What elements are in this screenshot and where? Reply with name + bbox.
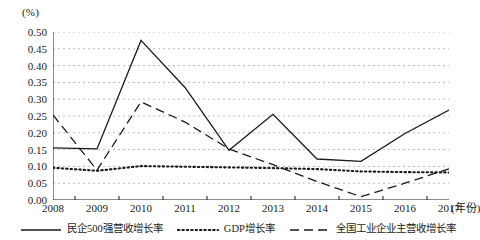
x-axis-tick-labels: 2008200920102011201220132014201520162017 [53, 203, 449, 219]
legend-label: 全国工业企业主营收增长率 [336, 224, 456, 235]
series-line [53, 166, 449, 172]
y-tick-label: 0.20 [28, 127, 47, 138]
chart-legend: 民企500强营收增长率GDP增长率全国工业企业主营收增长率 [0, 219, 476, 240]
x-tick-label: 2009 [86, 203, 108, 214]
x-tick-label: 2012 [218, 203, 240, 214]
gridlines [53, 32, 449, 183]
series-paths [53, 40, 449, 196]
x-axis-title: (年份) [451, 203, 480, 214]
x-tick-label: 2016 [394, 203, 416, 214]
x-tick-label: 2015 [350, 203, 372, 214]
series-line [53, 40, 449, 161]
legend-item[interactable]: GDP增长率 [177, 224, 275, 235]
x-tick-label: 2013 [262, 203, 284, 214]
x-axis-ticks [75, 196, 427, 200]
y-tick-label: 0.40 [28, 60, 47, 71]
legend-swatch-icon [177, 225, 219, 235]
y-axis-tick-labels: 0.000.050.100.150.200.250.300.350.400.45… [0, 32, 51, 200]
y-tick-label: 0.45 [28, 43, 47, 54]
legend-swatch-icon [289, 225, 331, 235]
y-tick-label: 0.15 [28, 144, 47, 155]
y-tick-label: 0.35 [28, 77, 47, 88]
y-tick-label: 0.25 [28, 111, 47, 122]
x-tick-label: 2011 [174, 203, 196, 214]
legend-label: GDP增长率 [224, 224, 275, 235]
y-tick-label: 0.10 [28, 161, 47, 172]
y-tick-label: 0.30 [28, 94, 47, 105]
plot-area [53, 32, 449, 200]
legend-label: 民企500强营收增长率 [67, 224, 163, 235]
x-tick-label: 2014 [306, 203, 328, 214]
x-tick-label: 2008 [42, 203, 64, 214]
legend-item[interactable]: 民企500强营收增长率 [20, 224, 163, 235]
legend-swatch-icon [20, 225, 62, 235]
y-tick-label: 0.50 [28, 27, 47, 38]
x-tick-label: 2010 [130, 203, 152, 214]
y-axis-unit-label: (%) [22, 6, 39, 18]
y-tick-label: 0.05 [28, 178, 47, 189]
legend-item[interactable]: 全国工业企业主营收增长率 [289, 224, 456, 235]
